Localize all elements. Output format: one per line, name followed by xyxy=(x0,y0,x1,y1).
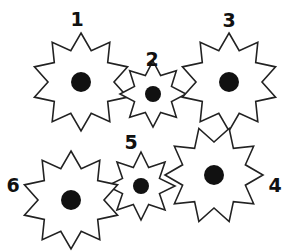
gear-1 xyxy=(34,33,127,131)
gear-hub-dot xyxy=(219,72,239,92)
gear-hub-dot xyxy=(61,190,81,210)
gear-label-1: 1 xyxy=(70,10,83,29)
gear-6 xyxy=(24,151,117,249)
gear-hub-dot xyxy=(145,86,161,102)
gear-hub-dot xyxy=(71,72,91,92)
gear-3 xyxy=(182,33,275,131)
gear-hub-dot xyxy=(204,165,224,185)
gear-label-5: 5 xyxy=(124,133,137,152)
gear-label-3: 3 xyxy=(222,11,235,30)
gear-label-4: 4 xyxy=(268,176,281,195)
gear-4 xyxy=(165,128,263,221)
gear-hub-dot xyxy=(133,178,149,194)
gear-diagram xyxy=(0,0,283,251)
gear-2 xyxy=(120,61,186,127)
gear-label-6: 6 xyxy=(6,176,19,195)
gear-label-2: 2 xyxy=(145,50,158,69)
